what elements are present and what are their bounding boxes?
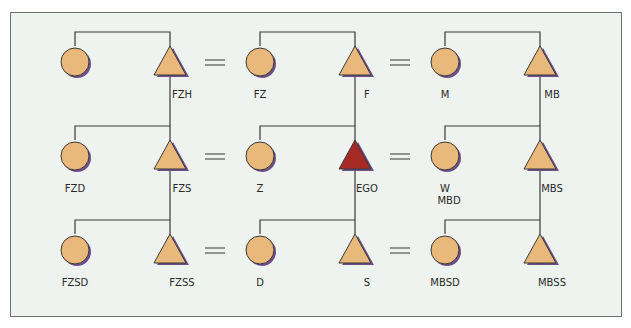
node-label: M bbox=[441, 89, 450, 100]
node-label: FZ bbox=[254, 89, 267, 100]
male-node-mb: MB bbox=[524, 46, 560, 100]
female-node-mbsd: MBSD bbox=[430, 236, 461, 288]
female-node bbox=[61, 48, 91, 78]
node-label: EGO bbox=[356, 183, 378, 194]
node-label: Z bbox=[257, 183, 264, 194]
node-label: FZS bbox=[173, 183, 192, 194]
circle-icon bbox=[431, 142, 459, 170]
triangle-icon bbox=[339, 46, 371, 75]
male-node-fzss: FZSS bbox=[154, 234, 195, 288]
connector-lines bbox=[75, 32, 540, 234]
node-label: F bbox=[364, 89, 370, 100]
female-node-w: WMBD bbox=[431, 142, 461, 206]
node-label: S bbox=[364, 277, 370, 288]
node-label: MB bbox=[544, 89, 560, 100]
circle-icon bbox=[431, 48, 459, 76]
node-label: FZSD bbox=[62, 277, 89, 288]
circle-icon bbox=[246, 142, 274, 170]
female-node-fz: FZ bbox=[246, 48, 276, 100]
marriage-sign bbox=[390, 60, 410, 65]
node-label: FZH bbox=[172, 89, 192, 100]
sibling-bar bbox=[75, 32, 170, 46]
node-label: MBSS bbox=[538, 277, 566, 288]
node-label: MBS bbox=[541, 183, 563, 194]
female-node-z: Z bbox=[246, 142, 276, 194]
marriage-sign bbox=[205, 60, 225, 65]
circle-icon bbox=[246, 236, 274, 264]
female-node-m: M bbox=[431, 48, 461, 100]
marriage-sign bbox=[205, 248, 225, 253]
sibling-bar bbox=[260, 32, 355, 46]
female-node-d: D bbox=[246, 236, 276, 288]
kin-nodes: FZHFZFMMBFZDFZSZEGOWMBDMBSFZSDFZSSDSMBSD… bbox=[61, 46, 566, 288]
female-node-fzsd: FZSD bbox=[61, 236, 91, 288]
triangle-icon bbox=[339, 234, 371, 263]
triangle-icon bbox=[154, 234, 186, 263]
triangle-icon bbox=[524, 140, 556, 169]
marriage-sign bbox=[390, 248, 410, 253]
circle-icon bbox=[61, 48, 89, 76]
node-label: D bbox=[256, 277, 264, 288]
triangle-icon bbox=[154, 46, 186, 75]
triangle-icon bbox=[524, 46, 556, 75]
male-node-fzs: FZS bbox=[154, 140, 191, 194]
sibling-bar bbox=[445, 32, 540, 46]
circle-icon bbox=[61, 236, 89, 264]
circle-icon bbox=[246, 48, 274, 76]
male-node-mbs: MBS bbox=[524, 140, 563, 194]
male-node-f: F bbox=[339, 46, 374, 100]
female-node-fzd: FZD bbox=[61, 142, 91, 194]
triangle-icon bbox=[339, 140, 371, 169]
kinship-diagram: FZHFZFMMBFZDFZSZEGOWMBDMBSFZSDFZSSDSMBSD… bbox=[0, 0, 631, 328]
node-label: W bbox=[440, 183, 450, 194]
node-label: MBSD bbox=[430, 277, 460, 288]
marriage-sign bbox=[205, 154, 225, 159]
node-label: FZD bbox=[65, 183, 86, 194]
male-node-mbss: MBSS bbox=[524, 234, 566, 288]
triangle-icon bbox=[524, 234, 556, 263]
marriage-sign bbox=[390, 154, 410, 159]
node-label: FZSS bbox=[169, 277, 194, 288]
node-label-secondary: MBD bbox=[437, 195, 460, 206]
triangle-icon bbox=[154, 140, 186, 169]
circle-icon bbox=[431, 236, 459, 264]
male-node-s: S bbox=[339, 234, 374, 288]
marriage-signs bbox=[205, 60, 410, 253]
male-node-ego: EGO bbox=[339, 140, 378, 194]
circle-icon bbox=[61, 142, 89, 170]
male-node-fzh: FZH bbox=[154, 46, 192, 100]
